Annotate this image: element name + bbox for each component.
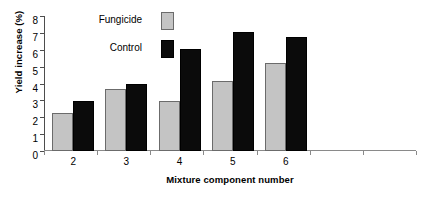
x-tick-mark [150, 151, 151, 155]
y-tick-label: 0 [22, 151, 38, 161]
y-tick-mark [40, 50, 44, 51]
bar-control-5 [233, 32, 254, 151]
x-tick-mark [416, 151, 417, 155]
y-tick-label: 4 [22, 84, 38, 94]
bar-fungicide-2 [52, 113, 73, 151]
x-tick-label: 3 [111, 156, 141, 168]
legend-item-fungicide: Fungicide [62, 12, 174, 30]
legend-label-control: Control [110, 42, 142, 54]
x-tick-label: 6 [271, 156, 301, 168]
x-tick-label: 2 [58, 156, 88, 168]
y-axis-tick-labels: 012345678 [22, 10, 38, 157]
x-tick-label: 4 [165, 156, 195, 168]
x-axis-title: Mixture component number [44, 174, 416, 185]
y-tick-label: 3 [22, 100, 38, 110]
y-tick-label: 6 [22, 50, 38, 60]
legend-item-control: Control [62, 40, 174, 58]
x-tick-mark [44, 151, 45, 155]
y-tick-mark [40, 117, 44, 118]
y-tick-mark [40, 33, 44, 34]
y-tick-label: 2 [22, 117, 38, 127]
legend-swatch-fungicide-icon [161, 12, 174, 30]
bar-fungicide-4 [159, 101, 180, 151]
y-tick-mark [40, 67, 44, 68]
y-tick-mark [40, 134, 44, 135]
bar-fungicide-3 [105, 89, 126, 151]
bar-control-6 [286, 37, 307, 151]
legend-swatch-control-icon [161, 40, 174, 58]
bar-control-4 [180, 49, 201, 151]
legend-label-fungicide: Fungicide [99, 14, 142, 26]
x-tick-mark [97, 151, 98, 155]
bar-control-3 [126, 84, 147, 152]
x-axis-tick-labels: 23456 [44, 156, 416, 170]
legend: Fungicide Control [62, 12, 174, 58]
y-tick-mark [40, 100, 44, 101]
y-tick-mark [40, 16, 44, 17]
x-tick-mark [203, 151, 204, 155]
bar-fungicide-6 [265, 63, 286, 151]
y-tick-label: 1 [22, 134, 38, 144]
y-tick-label: 8 [22, 16, 38, 26]
x-tick-mark [310, 151, 311, 155]
y-tick-label: 7 [22, 33, 38, 43]
y-tick-label: 5 [22, 67, 38, 77]
bar-chart-figure: Yield increase (%) 012345678 23456 Mixtu… [0, 0, 434, 197]
x-tick-mark [257, 151, 258, 155]
x-tick-mark [363, 151, 364, 155]
bar-control-2 [73, 101, 94, 151]
bar-fungicide-5 [212, 81, 233, 151]
y-tick-mark [40, 84, 44, 85]
x-tick-label: 5 [218, 156, 248, 168]
